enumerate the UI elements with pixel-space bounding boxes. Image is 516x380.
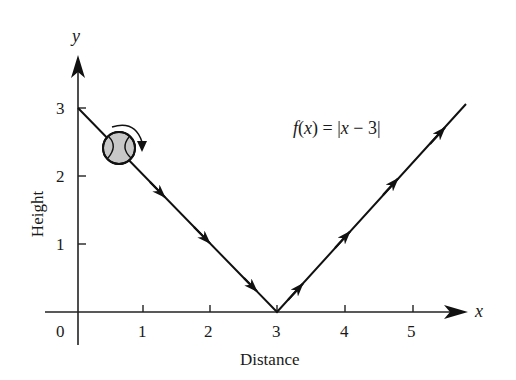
x-tick-label-3: 3 [272, 322, 281, 341]
direction-arrow-icon [335, 232, 350, 249]
x-tick-label-5: 5 [407, 322, 416, 341]
x-tick-label-4: 4 [340, 322, 349, 341]
direction-arrow-icon [194, 227, 210, 243]
direction-arrow-icon [288, 284, 303, 301]
y-tick-label-1: 1 [56, 235, 65, 254]
y-variable-label: y [70, 26, 80, 46]
x-axis-title: Distance [240, 350, 299, 369]
function-graph [78, 104, 466, 312]
y-tick-label-3: 3 [56, 99, 65, 118]
y-axis [71, 55, 86, 345]
x-tick-label-1: 1 [138, 322, 147, 341]
x-axis [45, 305, 468, 319]
absolute-value-graph: 0 1 2 3 4 5 3 2 1 y x Distance Height f(… [0, 0, 516, 380]
x-variable-label: x [474, 301, 483, 321]
function-label: f(x) = |x − 3| [293, 118, 381, 139]
y-axis-title: Height [28, 191, 47, 238]
baseball-icon [103, 132, 135, 164]
direction-arrow-icon [244, 278, 257, 291]
direction-arrow-icon [430, 128, 445, 145]
x-origin-label: 0 [56, 322, 65, 341]
direction-arrow-icon [383, 179, 398, 196]
direction-arrow-icon [150, 182, 165, 197]
y-tick-label-2: 2 [56, 167, 65, 186]
x-tick-label-2: 2 [204, 322, 213, 341]
